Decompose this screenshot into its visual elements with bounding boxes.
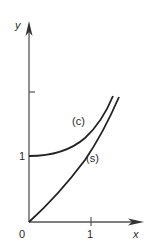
- y-axis: [26, 21, 36, 222]
- x-axis-label: x: [132, 228, 139, 240]
- curve-s-label: (s): [86, 152, 99, 164]
- curve-c: [29, 96, 113, 156]
- curve-c-label: (c): [72, 115, 85, 127]
- x-tick-1-label: 1: [87, 228, 93, 240]
- y-tick-1-label: 1: [19, 150, 25, 162]
- x-axis: [29, 217, 144, 226]
- hyperbolic-functions-diagram: y x 0 1 1 (c) (s): [0, 0, 152, 246]
- origin-label: 0: [19, 228, 25, 240]
- y-axis-label: y: [14, 19, 22, 31]
